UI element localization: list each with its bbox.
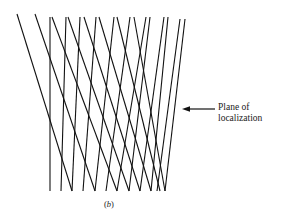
label-line-1: Plane of (218, 102, 262, 113)
ray-bundle (17, 14, 185, 191)
light-ray (129, 17, 150, 191)
label-line-2: localization (218, 113, 262, 124)
arrowhead-icon (182, 106, 190, 112)
plane-of-localization-label: Plane of localization (218, 102, 262, 124)
light-ray (68, 17, 129, 191)
light-ray (151, 17, 168, 191)
figure-caption: (b) (104, 199, 114, 209)
caption-close-paren: ) (111, 199, 114, 209)
light-ray (72, 17, 80, 191)
light-ray (106, 17, 130, 191)
light-ray (95, 17, 114, 191)
